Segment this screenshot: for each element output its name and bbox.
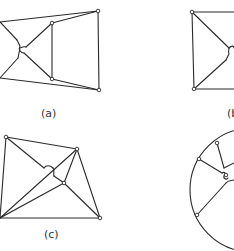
- graph-edge: [0, 11, 98, 22]
- graph-edge: [224, 163, 234, 168]
- graph-vertex: [96, 9, 100, 13]
- graph-edge: [6, 137, 77, 149]
- graph-edge: [98, 11, 99, 90]
- graph-edge: [0, 58, 18, 78]
- graph-edge: [0, 183, 64, 218]
- graph-vertex: [215, 141, 219, 145]
- panel-b-label: (b): [227, 107, 234, 120]
- graph-vertex: [192, 87, 196, 91]
- panel-c-graph: [0, 135, 102, 220]
- edge-crossing-hump: [226, 180, 234, 183]
- graph-edge: [52, 79, 99, 90]
- graph-edge: [52, 11, 98, 23]
- graph-edge: [217, 143, 224, 168]
- graph-edge: [192, 12, 194, 89]
- graph-edge: [199, 159, 222, 173]
- edge-crossing-hump: [53, 168, 54, 176]
- graph-vertex: [75, 147, 79, 151]
- graph-vertex: [197, 157, 201, 161]
- graph-vertex: [190, 10, 194, 14]
- panel-b-graph: [190, 10, 234, 91]
- panel-c-label: (c): [44, 228, 59, 241]
- graph-edge: [24, 53, 52, 79]
- graph-vertex: [50, 77, 54, 81]
- panel-d-graph: [190, 128, 234, 251]
- graph-edge: [26, 23, 52, 47]
- graph-edge: [197, 183, 226, 215]
- graph-vertex: [97, 88, 101, 92]
- graph-edge: [77, 149, 100, 218]
- edge-crossing-hump: [226, 48, 229, 60]
- panel-a-graph: [0, 9, 101, 92]
- edge-crossing-hump: [44, 166, 53, 168]
- graph-edge: [192, 12, 229, 48]
- graph-edge: [194, 60, 226, 89]
- graph-vertex: [224, 173, 228, 177]
- graph-figure: (a) (b) (c): [0, 0, 234, 251]
- graph-edge: [6, 137, 44, 168]
- graph-vertex: [50, 21, 54, 25]
- graph-vertex: [62, 181, 66, 185]
- edge-crossing-hump: [229, 46, 234, 48]
- graph-vertex: [195, 213, 199, 217]
- figure-canvas: (a) (b) (c): [0, 0, 234, 251]
- graph-edge: [0, 78, 99, 90]
- panel-a-label: (a): [41, 107, 56, 120]
- graph-edge: [0, 22, 17, 40]
- graph-vertex: [98, 216, 102, 220]
- outer-circle: [190, 128, 234, 251]
- graph-vertex: [4, 135, 8, 139]
- graph-edge: [0, 137, 6, 218]
